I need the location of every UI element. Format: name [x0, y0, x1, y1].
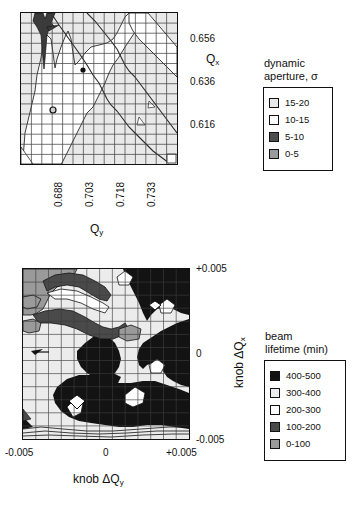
- tune-xtick-1: 0.703: [85, 182, 95, 207]
- tune-xaxis-label: Qy: [90, 222, 103, 237]
- knob-xaxis-label-main: knob ΔQ: [73, 472, 120, 486]
- tune-marker-filled: [80, 67, 85, 72]
- tune-yaxis-label-main: Q: [206, 52, 215, 66]
- tune-legend-swatch-1: [269, 115, 279, 125]
- knob-legend-title-line1: beam: [265, 330, 293, 343]
- knob-ytick-1: 0: [196, 349, 202, 359]
- tune-legend-item-2: 5-10: [264, 128, 332, 145]
- knob-legend-label-4: 0-100: [286, 438, 310, 449]
- knob-legend-item-3: 100-200: [265, 418, 345, 435]
- knob-legend-label-2: 200-300: [286, 404, 321, 415]
- tune-legend-swatch-2: [269, 132, 279, 142]
- knob-legend-swatch-4: [270, 439, 280, 449]
- tune-xaxis-label-main: Q: [90, 222, 99, 236]
- tune-ytick-1: 0.636: [190, 77, 215, 87]
- tune-legend-label-3: 0-5: [285, 148, 299, 159]
- knob-ytick-2: -0.005: [196, 435, 224, 445]
- knob-xtick-0: -0.005: [5, 448, 33, 458]
- tune-xtick-3: 0.733: [147, 182, 157, 207]
- knob-legend-swatch-3: [270, 422, 280, 432]
- tune-legend-title-line1: dynamic: [264, 57, 305, 70]
- tune-ytick-2: 0.616: [190, 120, 215, 130]
- tune-legend-box: 15-20 10-15 5-10 0-5: [263, 87, 333, 171]
- tune-diagram-plot-area: [20, 12, 178, 165]
- knob-yaxis-label: knob ΔQx: [232, 337, 247, 388]
- knob-legend-item-1: 300-400: [265, 384, 345, 401]
- tune-xaxis-label-sub: y: [99, 228, 103, 237]
- tune-yaxis-label-sub: x: [215, 58, 219, 67]
- tune-ytick-0: 0.656: [190, 34, 215, 44]
- knob-xaxis-label: knob ΔQy: [73, 472, 124, 487]
- tune-legend-swatch-0: [269, 98, 279, 108]
- tune-yaxis-label: Qx: [206, 52, 219, 67]
- knob-yaxis-label-sub: x: [238, 337, 247, 341]
- tune-legend-label-2: 5-10: [285, 131, 304, 142]
- knob-xaxis-label-sub: y: [120, 478, 124, 487]
- tune-legend-label-0: 15-20: [285, 97, 309, 108]
- tune-marker-open: [50, 107, 56, 113]
- knob-legend-item-4: 0-100: [265, 435, 345, 452]
- tune-xtick-2: 0.718: [116, 182, 126, 207]
- knob-legend-label-0: 400-500: [286, 370, 321, 381]
- knob-diagram-plot-area: [22, 268, 190, 440]
- knob-legend-swatch-2: [270, 405, 280, 415]
- tune-xtick-0: 0.688: [54, 182, 64, 207]
- knob-legend-swatch-1: [270, 388, 280, 398]
- tune-diagram-contours: [21, 13, 177, 164]
- tune-legend-item-0: 15-20: [264, 94, 332, 111]
- knob-legend-label-3: 100-200: [286, 421, 321, 432]
- tune-legend-item-3: 0-5: [264, 145, 332, 162]
- tune-legend-title-line2: aperture, σ: [264, 70, 318, 83]
- tune-legend-label-1: 10-15: [285, 114, 309, 125]
- knob-xtick-1: 0: [103, 448, 109, 458]
- knob-legend-item-0: 400-500: [265, 367, 345, 384]
- knob-diagram-contours: [23, 269, 189, 439]
- knob-legend-swatch-0: [270, 371, 280, 381]
- tune-legend-swatch-3: [269, 149, 279, 159]
- knob-legend-title-line2: lifetime (min): [265, 343, 328, 356]
- knob-legend-item-2: 200-300: [265, 401, 345, 418]
- knob-legend-box: 400-500 300-400 200-300 100-200 0-100: [264, 360, 346, 461]
- knob-yaxis-label-main: knob ΔQ: [232, 341, 246, 388]
- tune-legend-item-1: 10-15: [264, 111, 332, 128]
- knob-ytick-0: +0.005: [196, 264, 227, 274]
- knob-xtick-2: +0.005: [166, 448, 197, 458]
- knob-legend-label-1: 300-400: [286, 387, 321, 398]
